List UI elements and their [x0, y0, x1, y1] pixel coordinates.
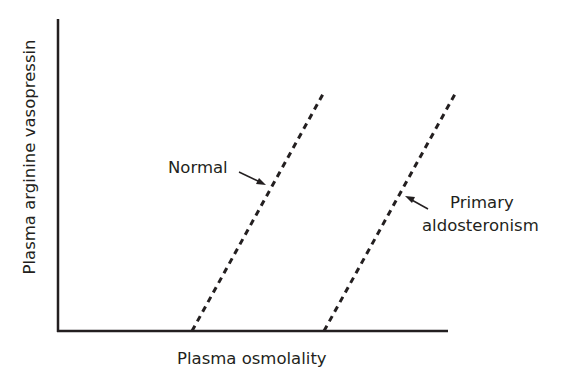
normal-arrow-icon — [239, 172, 266, 185]
primary-label-line1: Primary — [450, 193, 514, 213]
normal-line — [192, 94, 323, 331]
primary-aldosteronism-line — [324, 94, 455, 331]
normal-label: Normal — [168, 158, 228, 178]
primary-label-line2: aldosteronism — [422, 216, 539, 236]
primary-arrow-icon — [405, 196, 428, 209]
x-axis-label: Plasma osmolality — [177, 349, 327, 369]
y-axis-label: Plasma arginine vasopressin — [20, 55, 39, 275]
